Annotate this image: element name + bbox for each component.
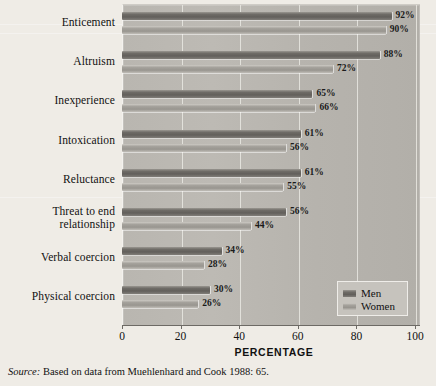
category-label: Intoxication: [58, 134, 115, 147]
bar-men: [122, 12, 392, 20]
legend: Men Women: [337, 281, 408, 316]
legend-swatch-men-icon: [343, 290, 356, 297]
legend-label-women: Women: [361, 300, 395, 312]
x-tick: [415, 325, 416, 329]
bar-value-label: 61%: [305, 128, 324, 138]
category-label: Verbal coercion: [41, 251, 115, 264]
category-label: Enticement: [62, 16, 115, 29]
x-tick-label: 40: [233, 330, 245, 342]
x-tick: [122, 325, 123, 329]
bar-value-label: 61%: [305, 167, 324, 177]
bar-value-label: 72%: [337, 63, 356, 73]
bar-value-label: 88%: [384, 49, 403, 59]
bar-value-label: 56%: [290, 142, 309, 152]
legend-swatch-women-icon: [343, 303, 356, 310]
bar-value-label: 90%: [390, 24, 409, 34]
x-axis-line: [122, 325, 420, 326]
bar-value-label: 66%: [319, 102, 338, 112]
bar-value-label: 26%: [202, 298, 221, 308]
bar-men: [122, 169, 301, 177]
category-label: Physical coercion: [32, 290, 115, 303]
source-note: Source: Based on data from Muehlenhard a…: [8, 366, 269, 377]
category-label: Altruism: [73, 55, 115, 68]
chart-figure: EnticementAltruismInexperienceIntoxicati…: [0, 0, 436, 386]
bar-women: [122, 300, 198, 308]
bar-women: [122, 65, 333, 73]
x-tick: [298, 325, 299, 329]
category-label: Inexperience: [54, 94, 115, 107]
bar-women: [122, 104, 315, 112]
bar-value-label: 44%: [255, 220, 274, 230]
x-axis-title: PERCENTAGE: [0, 346, 436, 358]
legend-item-men: Men: [343, 287, 381, 299]
bar-value-label: 56%: [290, 206, 309, 216]
bar-women: [122, 26, 386, 34]
x-tick-label: 80: [351, 330, 363, 342]
bar-women: [122, 261, 204, 269]
bar-women: [122, 222, 251, 230]
bar-men: [122, 130, 301, 138]
x-tick: [356, 325, 357, 329]
source-prefix: Source:: [8, 366, 40, 377]
bar-value-label: 30%: [214, 284, 233, 294]
x-tick: [181, 325, 182, 329]
bar-women: [122, 183, 283, 191]
x-tick-label: 0: [119, 330, 125, 342]
bar-value-label: 92%: [396, 10, 415, 20]
bar-men: [122, 51, 380, 59]
x-tick-label: 100: [406, 330, 423, 342]
gridline-100: [416, 5, 417, 326]
bar-value-label: 55%: [287, 181, 306, 191]
bar-value-label: 65%: [316, 88, 335, 98]
x-tick: [239, 325, 240, 329]
source-text: Based on data from Muehlenhard and Cook …: [40, 366, 269, 377]
bar-men: [122, 286, 210, 294]
bar-women: [122, 144, 286, 152]
category-label: Reluctance: [63, 173, 115, 186]
x-tick-label: 60: [292, 330, 304, 342]
bar-men: [122, 90, 312, 98]
bar-men: [122, 208, 286, 216]
x-tick-label: 20: [175, 330, 187, 342]
category-label: Threat to end relationship: [52, 205, 115, 231]
bar-value-label: 34%: [226, 245, 245, 255]
legend-label-men: Men: [361, 287, 381, 299]
bar-men: [122, 247, 222, 255]
legend-item-women: Women: [343, 300, 395, 312]
bar-value-label: 28%: [208, 259, 227, 269]
